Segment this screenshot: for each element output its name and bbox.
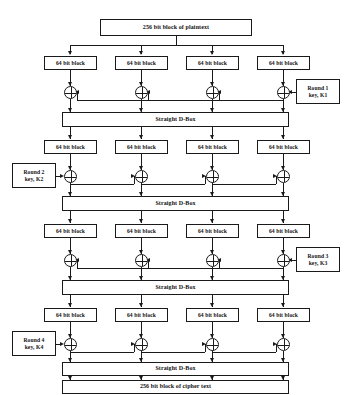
xor-gate-r1c1 (64, 86, 77, 99)
block-r1c1: 64 bit block (44, 56, 97, 70)
arrow-down-icon (281, 303, 285, 307)
arrow-down-icon (281, 219, 285, 223)
xor-gate-r4c2 (135, 338, 148, 351)
block-r4c2: 64 bit block (115, 308, 168, 322)
block-r2c1: 64 bit block (44, 140, 97, 154)
block-r4c4: 64 bit block (257, 308, 310, 322)
arrow-down-icon (281, 51, 285, 55)
round-key-box-4: Round 4 key, K4 (12, 331, 56, 356)
straight-dbox-4: Straight D-Box (62, 362, 289, 376)
block-r3c1: 64 bit block (44, 224, 97, 238)
xor-gate-r3c1 (64, 254, 77, 267)
arrow-down-icon (68, 51, 72, 55)
block-r3c4: 64 bit block (257, 224, 310, 238)
arrow-down-icon (139, 135, 143, 139)
xor-gate-r2c2 (135, 170, 148, 183)
arrow-down-icon (210, 135, 214, 139)
arrow-down-icon (68, 219, 72, 223)
block-r3c3: 64 bit block (186, 224, 239, 238)
plaintext-stem (176, 36, 177, 45)
xor-gate-r2c3 (206, 170, 219, 183)
block-r3c2: 64 bit block (115, 224, 168, 238)
arrow-down-icon (68, 303, 72, 307)
xor-gate-r2c4 (277, 170, 290, 183)
k1-chain-h2 (148, 100, 219, 101)
k2-chain-h3 (212, 184, 276, 185)
k4-chain-h2 (141, 352, 205, 353)
round-key-box-3: Round 3 key, K3 (296, 247, 340, 272)
xor-gate-r3c2 (135, 254, 148, 267)
block-r2c4: 64 bit block (257, 140, 310, 154)
round-key-box-1: Round 1 key, K1 (296, 79, 340, 104)
k3-chain-h2 (148, 268, 219, 269)
xor-gate-r4c1 (64, 338, 77, 351)
xor-gate-r4c4 (277, 338, 290, 351)
xor-gate-r2c1 (64, 170, 77, 183)
block-r1c2: 64 bit block (115, 56, 168, 70)
xor-gate-r1c2 (135, 86, 148, 99)
arrow-down-icon (210, 303, 214, 307)
ciphertext-box: 256 bit block of cipher text (62, 380, 289, 394)
block-r1c3: 64 bit block (186, 56, 239, 70)
xor-gate-r1c4 (277, 86, 290, 99)
arrow-down-icon (210, 219, 214, 223)
xor-gate-r3c4 (277, 254, 290, 267)
arrow-down-icon (281, 135, 285, 139)
plaintext-box: 256 bit block of plaintext (100, 19, 252, 36)
arrow-down-icon (139, 219, 143, 223)
k3-chain-h1 (219, 268, 283, 269)
k4-chain-h1 (70, 352, 134, 353)
xor-gate-r4c3 (206, 338, 219, 351)
arrow-down-icon (68, 135, 72, 139)
round-key-box-2: Round 2 key, K2 (12, 163, 56, 188)
k4-chain-h3 (212, 352, 276, 353)
block-r4c3: 64 bit block (186, 308, 239, 322)
k2-chain-h1 (70, 184, 134, 185)
arrow-down-icon (139, 51, 143, 55)
k1-chain-h3 (77, 100, 148, 101)
xor-gate-r1c3 (206, 86, 219, 99)
xor-gate-r3c3 (206, 254, 219, 267)
k3-chain-h3 (77, 268, 148, 269)
k2-chain-h2 (141, 184, 205, 185)
arrow-down-icon (210, 51, 214, 55)
straight-dbox-3: Straight D-Box (62, 280, 289, 295)
k1-chain-h1 (219, 100, 283, 101)
block-r4c1: 64 bit block (44, 308, 97, 322)
straight-dbox-1: Straight D-Box (62, 112, 289, 127)
block-r2c3: 64 bit block (186, 140, 239, 154)
straight-dbox-2: Straight D-Box (62, 196, 289, 211)
block-r1c4: 64 bit block (257, 56, 310, 70)
cipher-block-diagram: 256 bit block of plaintext 64 bit block … (0, 0, 345, 395)
arrow-down-icon (139, 303, 143, 307)
fanout-bus-row1 (70, 45, 283, 46)
block-r2c2: 64 bit block (115, 140, 168, 154)
